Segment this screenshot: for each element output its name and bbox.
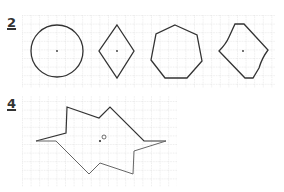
rhombus-center-dot: [116, 50, 118, 52]
exercise-figures: [0, 0, 284, 192]
center-point: [99, 140, 101, 142]
circle-center-dot: [56, 50, 58, 52]
hexagon-center-dot: [242, 50, 244, 52]
